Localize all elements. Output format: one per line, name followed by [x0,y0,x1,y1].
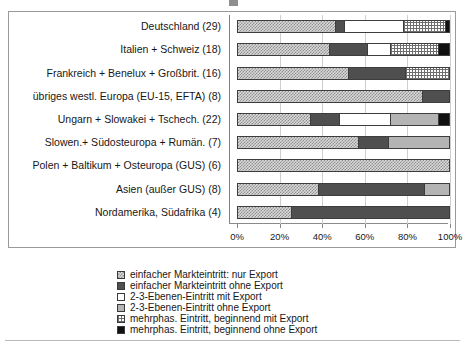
bar-segment [238,21,335,32]
stacked-bar [237,20,450,33]
plot-area: Deutschland (29)Italien + Schweiz (18)Fr… [8,11,456,248]
category-label: Deutschland (29) [141,21,221,32]
bar-segment [424,184,449,195]
chart-page: Deutschland (29)Italien + Schweiz (18)Fr… [0,0,465,344]
legend: einfacher Markteintritt: nur Exporteinfa… [117,270,317,336]
bar-segment [422,91,449,102]
axis-tick [365,224,366,228]
category-label: Asien (außer GUS) (8) [116,184,221,195]
category-label: übriges westl. Europa (EU-15, EFTA) (8) [33,91,221,102]
bar-segment [348,68,405,79]
stacked-bar [237,67,450,80]
legend-swatch-icon [117,282,125,290]
category-label: Polen + Baltikum + Osteuropa (GUS) (6) [33,160,222,171]
bars-region: 0%20%40%60%80%100% [229,12,455,247]
legend-item: einfacher Markteintritt ohne Export [117,281,317,292]
category-label: Frankreich + Benelux + Großbrit. (16) [47,68,222,79]
bar-segment [310,114,340,125]
legend-swatch-icon [117,326,125,334]
bar-segment [367,44,390,55]
x-tick-label: 40% [313,231,332,242]
bar-segment [445,21,449,32]
bar-segment [238,44,329,55]
legend-swatch-icon [117,271,125,279]
legend-swatch-icon [117,315,125,323]
bar-segment [390,114,439,125]
x-tick-label: 100% [438,231,462,242]
value-axis-line [229,15,230,224]
stacked-bar [237,206,450,219]
bar-segment [339,114,390,125]
bar-segment [438,44,449,55]
x-tick-label: 60% [355,231,374,242]
axis-tick [280,224,281,228]
bar-segment [390,44,439,55]
category-label: Nordamerika, Südafrika (4) [95,207,221,218]
bar-segment [403,21,445,32]
bar-segment [238,68,348,79]
category-label: Slowen.+ Südosteuropa + Rumän. (7) [45,137,221,148]
bar-segment [438,114,449,125]
axis-tick [237,224,238,228]
bar-segment [238,114,310,125]
legend-label: mehrphas. Eintritt, beginnend ohne Expor… [130,325,317,335]
stacked-bar [237,90,450,103]
legend-item: einfacher Markteintritt: nur Export [117,270,317,281]
bar-segment [388,137,449,148]
legend-label: 2-3-Ebenen-Eintritt ohne Export [130,303,271,313]
legend-item: mehrphas. Eintritt, beginnend mit Export [117,314,317,325]
legend-label: einfacher Markteintritt: nur Export [130,270,278,280]
x-tick-label: 80% [398,231,417,242]
category-label: Ungarn + Slowakei + Tschech. (22) [58,114,221,125]
axis-tick [407,224,408,228]
legend-label: einfacher Markteintritt ohne Export [130,281,283,291]
axis-tick [322,224,323,228]
axis-baseline [229,223,448,224]
legend-item: mehrphas. Eintritt, beginnend ohne Expor… [117,325,317,336]
bar-segment [329,44,367,55]
bar-segment [344,21,403,32]
bottom-divider [5,340,460,341]
legend-item: 2-3-Ebenen-Eintritt mit Export [117,292,317,303]
legend-swatch-icon [117,304,125,312]
bar-segment [318,184,424,195]
legend-label: mehrphas. Eintritt, beginnend mit Export [130,314,308,324]
category-axis: Deutschland (29)Italien + Schweiz (18)Fr… [9,12,229,247]
stacked-bar [237,43,450,56]
x-tick-label: 20% [270,231,289,242]
stacked-bar [237,183,450,196]
legend-item: 2-3-Ebenen-Eintritt ohne Export [117,303,317,314]
stacked-bar [237,136,450,149]
bar-segment [238,91,422,102]
bar-segment [358,137,388,148]
bar-segment [238,137,358,148]
x-tick-label: 0% [230,231,244,242]
axis-tick [450,224,451,228]
bar-segment [335,21,343,32]
stacked-bar [237,159,450,172]
bar-segment [291,207,449,218]
top-marker [229,0,238,6]
legend-label: 2-3-Ebenen-Eintritt mit Export [130,292,262,302]
category-label: Italien + Schweiz (18) [120,44,221,55]
bar-segment [238,207,291,218]
gridline [450,15,451,224]
legend-swatch-icon [117,293,125,301]
bar-segment [405,68,449,79]
stacked-bar [237,113,450,126]
bar-segment [238,160,449,171]
bar-segment [238,184,318,195]
